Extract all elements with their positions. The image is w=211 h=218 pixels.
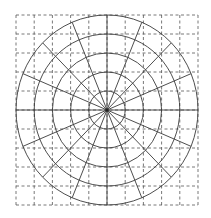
center-point bbox=[105, 108, 108, 111]
diagram-canvas bbox=[0, 0, 211, 218]
polar-grid-diagram bbox=[0, 0, 211, 218]
